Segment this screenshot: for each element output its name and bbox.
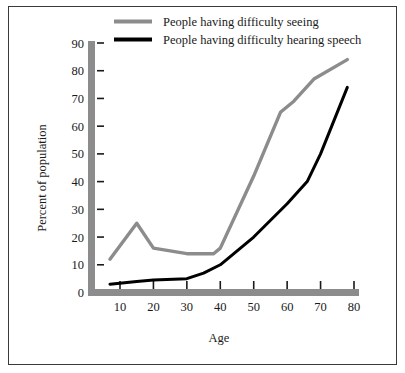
y-axis-line	[88, 41, 95, 296]
x-axis-title: Age	[209, 331, 230, 345]
x-tick-label-20: 20	[147, 300, 160, 314]
y-tick-label-20: 20	[72, 231, 85, 245]
line-chart: 0102030405060708090 1020304050607080 Age…	[0, 0, 405, 373]
x-axis-line	[88, 289, 359, 296]
chart-figure: 0102030405060708090 1020304050607080 Age…	[0, 0, 405, 373]
x-axis-tick-labels: 1020304050607080	[114, 300, 361, 314]
y-axis-title: Percent of population	[35, 123, 49, 231]
y-tick-label-10: 10	[72, 258, 85, 272]
y-tick-label-50: 50	[72, 147, 85, 161]
y-tick-label-40: 40	[72, 175, 85, 189]
y-axis-ticks	[97, 43, 104, 265]
x-tick-label-50: 50	[247, 300, 260, 314]
series-line-hearing	[110, 87, 347, 284]
x-tick-label-10: 10	[114, 300, 127, 314]
y-tick-label-0: 0	[78, 286, 84, 300]
chart-legend: People having difficulty seeing People h…	[114, 15, 362, 47]
x-tick-label-70: 70	[314, 300, 327, 314]
x-axis-ticks	[120, 281, 354, 289]
x-tick-label-30: 30	[181, 300, 194, 314]
y-tick-label-60: 60	[72, 120, 85, 134]
y-axis-tick-labels: 0102030405060708090	[72, 37, 85, 301]
legend-label-seeing: People having difficulty seeing	[163, 15, 319, 29]
y-tick-label-30: 30	[72, 203, 85, 217]
x-tick-label-60: 60	[281, 300, 294, 314]
y-tick-label-80: 80	[72, 64, 85, 78]
y-tick-label-70: 70	[72, 92, 85, 106]
data-series-group	[110, 60, 347, 285]
y-tick-label-90: 90	[72, 37, 85, 51]
x-tick-label-80: 80	[348, 300, 361, 314]
x-tick-label-40: 40	[214, 300, 227, 314]
series-line-seeing	[110, 60, 347, 260]
legend-label-hearing: People having difficulty hearing speech	[163, 33, 362, 47]
